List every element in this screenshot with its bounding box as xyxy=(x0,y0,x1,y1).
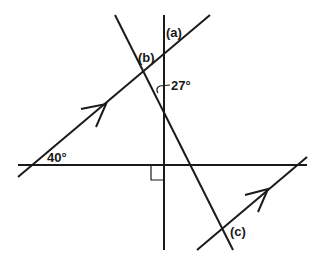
label-angle-40: 40° xyxy=(47,150,67,165)
right-angle-marker xyxy=(151,165,164,180)
parallel-arrow-left-icon xyxy=(81,104,106,127)
parallel-line-right xyxy=(197,157,307,250)
label-b: (b) xyxy=(138,50,155,65)
label-a: (a) xyxy=(166,25,182,40)
label-c: (c) xyxy=(230,224,246,239)
geometry-diagram: (a) (b) 27° 40° (c) xyxy=(0,0,319,263)
label-angle-27: 27° xyxy=(171,78,191,93)
transversal-line xyxy=(115,15,233,250)
